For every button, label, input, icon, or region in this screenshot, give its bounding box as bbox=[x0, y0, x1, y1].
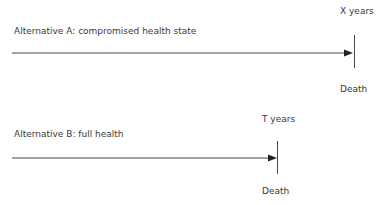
alternative-a-label: Alternative A: compromised health state bbox=[14, 26, 196, 37]
timeline-b-duration-label: T years bbox=[262, 114, 295, 125]
timeline-a-arrowhead-icon bbox=[344, 50, 353, 57]
timeline-a bbox=[12, 35, 355, 68]
timeline-b-end-label: Death bbox=[262, 186, 289, 197]
timeline-a-end-label: Death bbox=[340, 84, 367, 95]
timeline-a-duration-label: X years bbox=[340, 6, 374, 17]
alternative-b-label: Alternative B: full health bbox=[14, 129, 124, 140]
timeline-b bbox=[12, 141, 278, 174]
timeline-b-arrowhead-icon bbox=[268, 155, 277, 162]
